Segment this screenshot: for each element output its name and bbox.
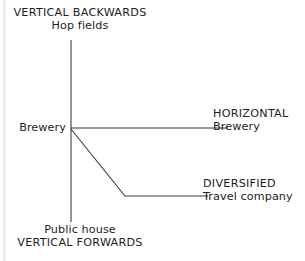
vertical-backwards-example-label: Hop fields (0, 20, 160, 33)
horizontal-label-group: HORIZONTAL Brewery (213, 108, 305, 133)
horizontal-example-label: Brewery (213, 121, 305, 134)
origin-label: Brewery (8, 122, 66, 135)
diversified-branch-line (71, 129, 208, 196)
vertical-forwards-label-group: Public house VERTICAL FORWARDS (0, 224, 160, 249)
diversified-direction-label: DIVERSIFIED (203, 178, 305, 191)
vertical-forwards-example-label: Public house (0, 224, 160, 237)
diversified-example-label: Travel company (203, 191, 305, 204)
vertical-backwards-label-group: VERTICAL BACKWARDS Hop fields (0, 7, 160, 32)
horizontal-direction-label: HORIZONTAL (213, 108, 305, 121)
vertical-backwards-direction-label: VERTICAL BACKWARDS (0, 7, 160, 20)
diversified-label-group: DIVERSIFIED Travel company (203, 178, 305, 203)
vertical-forwards-direction-label: VERTICAL FORWARDS (0, 237, 160, 250)
integration-diagram-figure: VERTICAL BACKWARDS Hop fields Public hou… (0, 0, 305, 261)
origin-label-group: Brewery (8, 122, 66, 135)
